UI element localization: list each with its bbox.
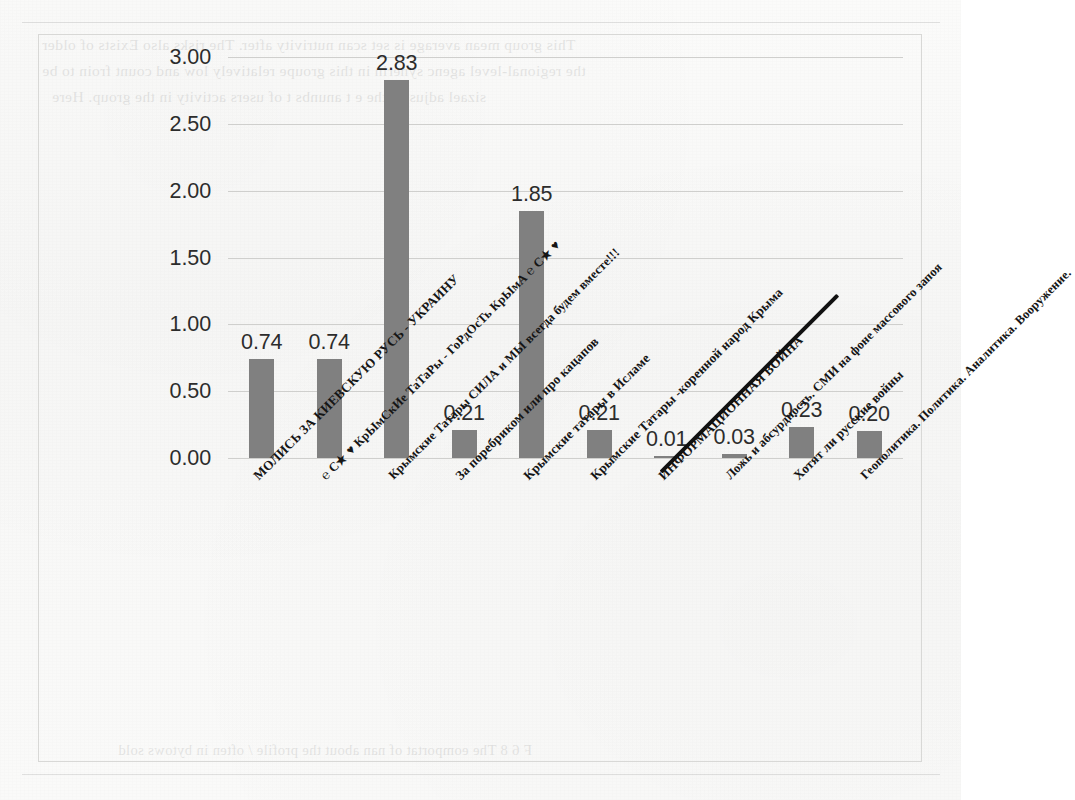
y-axis-tick-label: 1.50	[170, 245, 211, 270]
y-axis-tick-label: 0.50	[170, 379, 211, 404]
y-axis-tick-label: 2.00	[170, 178, 211, 203]
y-axis-tick-label: 2.50	[170, 111, 211, 136]
y-axis-tick-label: 3.00	[170, 45, 211, 70]
gridline	[228, 124, 903, 125]
bar-value-label: 1.85	[511, 182, 552, 207]
gridline	[228, 57, 903, 58]
y-axis-tick-label: 1.00	[170, 312, 211, 337]
bar-value-label: 2.83	[376, 51, 417, 76]
bar[interactable]	[249, 359, 274, 458]
bar-value-label: 0.74	[309, 330, 350, 355]
bar-value-label: 0.74	[241, 330, 282, 355]
gridline	[228, 258, 903, 259]
gridline	[228, 324, 903, 325]
gridline	[228, 191, 903, 192]
y-axis-tick-label: 0.00	[170, 446, 211, 471]
